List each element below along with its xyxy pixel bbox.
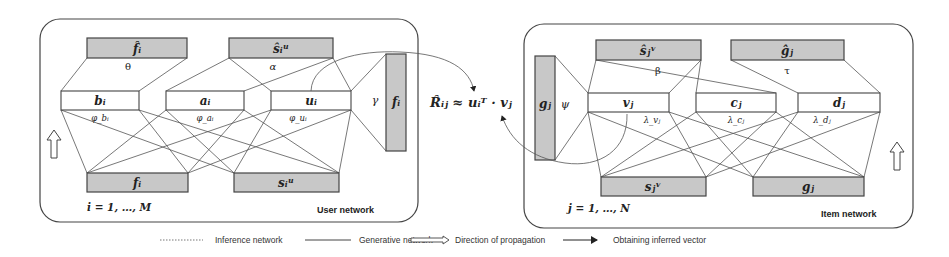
item-index-label: j = 1, …, N xyxy=(566,202,630,214)
phi-u-param: φ_uᵢ xyxy=(289,113,307,124)
user-network-panel: f̂ᵢ θ ŝᵢᵘ α bᵢ φ_bᵢ aᵢ φ_aᵢ uᵢ φ_uᵢ γ fᵢ… xyxy=(40,19,418,222)
item-side-output-g-label: gⱼ xyxy=(539,97,551,111)
legend-inferred-label: Obtaining inferred vector xyxy=(613,235,706,245)
lambda-d-param: λ_dⱼ xyxy=(812,115,831,126)
user-latent-b-label: bᵢ xyxy=(94,94,105,108)
phi-b-param: φ_bᵢ xyxy=(91,113,109,124)
item-network-panel: ŝⱼᵛ β ĝⱼ τ vⱼ λ_vⱼ cⱼ λ_cⱼ dⱼ λ_dⱼ gⱼ ψ … xyxy=(524,24,913,228)
rating-equation: R̂ᵢⱼ ≈ uᵢᵀ · vⱼ xyxy=(429,95,513,110)
item-input-s-label: sⱼᵛ xyxy=(645,180,662,194)
legend-propagation-label: Direction of propagation xyxy=(455,235,546,245)
user-top-output-f-hat-label: f̂ᵢ xyxy=(132,41,141,56)
user-side-output-f-label: fᵢ xyxy=(391,95,400,109)
lambda-v-param: λ_vⱼ xyxy=(643,115,661,126)
user-latent-a-label: aᵢ xyxy=(200,94,211,108)
item-network-title: Item network xyxy=(821,209,878,219)
user-input-s-label: sᵢᵘ xyxy=(278,176,294,190)
user-index-label: i = 1, …, M xyxy=(87,201,152,213)
item-input-g-label: gⱼ xyxy=(802,180,814,194)
tau-param: τ xyxy=(784,65,790,76)
item-top-output-g-hat-label: ĝⱼ xyxy=(781,44,793,58)
item-latent-d-label: dⱼ xyxy=(833,96,845,110)
gamma-param: γ xyxy=(372,94,379,107)
lambda-c-param: λ_cⱼ xyxy=(727,115,745,126)
alpha-param: α xyxy=(270,61,277,72)
item-top-output-s-hat-label: ŝⱼᵛ xyxy=(640,44,657,58)
dae-diagram: f̂ᵢ θ ŝᵢᵘ α bᵢ φ_bᵢ aᵢ φ_aᵢ uᵢ φ_uᵢ γ fᵢ… xyxy=(0,0,949,257)
item-latent-v-label: vⱼ xyxy=(623,96,634,110)
propagation-up-arrow-icon xyxy=(47,130,61,158)
beta-param: β xyxy=(655,65,661,76)
phi-a-param: φ_aᵢ xyxy=(197,113,214,124)
user-latent-u-label: uᵢ xyxy=(305,94,317,108)
user-input-f-label: fᵢ xyxy=(132,176,141,190)
item-latent-c-label: cⱼ xyxy=(730,96,741,110)
legend: Inference network Generative network Dir… xyxy=(160,235,706,245)
psi-param: ψ xyxy=(561,98,570,111)
propagation-up-arrow-icon xyxy=(890,142,904,170)
user-network-title: User network xyxy=(317,205,375,215)
inferred-v-arrow xyxy=(502,114,627,164)
legend-inference-label: Inference network xyxy=(215,235,283,245)
user-top-output-s-hat-label: ŝᵢᵘ xyxy=(273,42,289,56)
theta-param: θ xyxy=(125,61,131,72)
item-network-frame xyxy=(524,24,913,228)
